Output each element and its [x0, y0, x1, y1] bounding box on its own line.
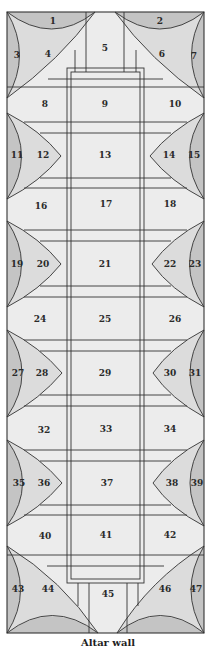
field-number-33: 33: [100, 424, 113, 434]
field-number-18: 18: [164, 199, 177, 209]
ceiling-diagram: 1234567891011121314151617181920212223242…: [0, 0, 216, 649]
field-number-42: 42: [164, 530, 177, 540]
field-number-31: 31: [189, 368, 202, 378]
field-number-13: 13: [99, 150, 112, 160]
field-number-17: 17: [100, 199, 113, 209]
field-number-19: 19: [11, 259, 24, 269]
diagram-caption: Altar wall: [0, 637, 216, 648]
field-number-8: 8: [42, 99, 48, 109]
field-number-9: 9: [102, 99, 108, 109]
field-number-29: 29: [99, 368, 112, 378]
field-number-47: 47: [190, 584, 203, 594]
field-number-27: 27: [12, 368, 25, 378]
field-number-15: 15: [188, 150, 201, 160]
field-number-46: 46: [159, 584, 172, 594]
field-number-7: 7: [191, 51, 197, 61]
field-number-6: 6: [159, 49, 165, 59]
field-number-25: 25: [99, 314, 112, 324]
field-number-21: 21: [99, 259, 112, 269]
field-number-5: 5: [102, 43, 108, 53]
field-number-44: 44: [42, 584, 55, 594]
field-number-12: 12: [37, 150, 50, 160]
field-number-38: 38: [166, 478, 179, 488]
field-number-1: 1: [50, 16, 56, 26]
field-number-32: 32: [38, 425, 51, 435]
field-number-14: 14: [163, 150, 176, 160]
field-number-3: 3: [14, 50, 20, 60]
field-number-37: 37: [101, 478, 114, 488]
field-number-11: 11: [11, 150, 24, 160]
field-number-16: 16: [35, 201, 48, 211]
field-number-4: 4: [45, 49, 51, 59]
field-number-20: 20: [37, 259, 50, 269]
field-number-2: 2: [157, 16, 163, 26]
field-number-34: 34: [164, 424, 177, 434]
field-number-36: 36: [38, 478, 51, 488]
field-number-28: 28: [36, 368, 49, 378]
field-number-23: 23: [189, 259, 202, 269]
field-number-43: 43: [12, 584, 25, 594]
field-number-10: 10: [169, 99, 182, 109]
field-number-35: 35: [13, 478, 26, 488]
field-number-30: 30: [164, 368, 177, 378]
field-number-22: 22: [164, 259, 177, 269]
field-number-26: 26: [169, 314, 182, 324]
field-number-40: 40: [39, 531, 52, 541]
field-number-39: 39: [191, 478, 204, 488]
field-number-41: 41: [100, 530, 113, 540]
field-number-45: 45: [102, 589, 115, 599]
field-number-24: 24: [34, 314, 47, 324]
